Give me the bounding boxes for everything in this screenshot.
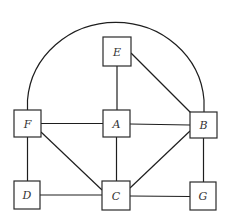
edge-B-C bbox=[130, 131, 190, 188]
edge-F-B-arc bbox=[28, 22, 205, 112]
node-label: D bbox=[22, 189, 32, 202]
node-C: C bbox=[102, 181, 130, 210]
node-E: E bbox=[103, 37, 131, 66]
edge-A-B bbox=[130, 124, 190, 125]
node-D: D bbox=[14, 181, 40, 209]
edge-C-G bbox=[130, 196, 190, 197]
node-G: G bbox=[190, 182, 216, 210]
node-label: E bbox=[112, 46, 121, 59]
node-label: B bbox=[198, 119, 207, 132]
node-B: B bbox=[190, 112, 217, 138]
node-A: A bbox=[103, 110, 130, 137]
graph-diagram: EFABDCG bbox=[0, 0, 229, 221]
edge-E-B bbox=[131, 53, 191, 113]
node-label: F bbox=[23, 118, 32, 131]
node-label: A bbox=[112, 118, 121, 131]
node-label: C bbox=[112, 190, 121, 203]
node-F: F bbox=[14, 110, 41, 137]
edge-F-C bbox=[41, 132, 102, 190]
node-label: G bbox=[199, 190, 208, 203]
